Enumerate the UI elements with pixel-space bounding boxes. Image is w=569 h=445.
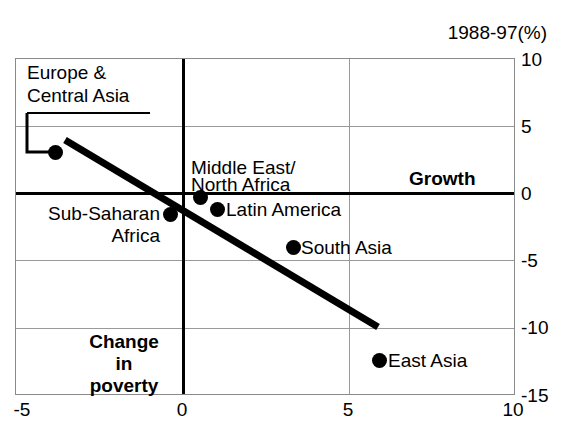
y-tick-0: 0 (521, 184, 532, 203)
annotation-change-in-poverty-line2: in (74, 353, 174, 375)
gridline-y-5 (16, 126, 514, 127)
y-tick-minus15: -15 (521, 386, 548, 405)
datapoint-europe-central-asia[interactable] (48, 145, 63, 160)
label-east-asia: East Asia (388, 350, 467, 371)
scatter-chart: 1988-97(%) 10 5 0 -5 -10 -15 -5 0 5 10 (0, 0, 569, 445)
axis-zero-vertical (182, 59, 185, 394)
x-tick-minus5: -5 (14, 400, 31, 419)
label-latin-america: Latin America (226, 199, 341, 220)
y-tick-5: 5 (521, 117, 532, 136)
datapoint-south-asia[interactable] (286, 240, 301, 255)
x-tick-0: 0 (177, 400, 188, 419)
y-tick-10: 10 (521, 50, 542, 69)
label-sub-saharan-africa-line1: Sub-Saharan (30, 203, 160, 224)
datapoint-east-asia[interactable] (372, 353, 387, 368)
label-sub-saharan-africa-line2: Africa (30, 225, 160, 246)
gridline-y-minus10 (16, 328, 514, 329)
datapoint-latin-america[interactable] (210, 202, 225, 217)
x-tick-10: 10 (502, 400, 523, 419)
datapoint-sub-saharan-africa[interactable] (163, 207, 178, 222)
label-europe-central-asia-line2: Central Asia (27, 85, 129, 106)
gridline-x-5 (349, 59, 350, 394)
label-middle-east-north-africa-line2: North Africa (191, 174, 290, 195)
annotation-change-in-poverty-line1: Change (74, 331, 174, 353)
gridline-y-minus5 (16, 260, 514, 261)
label-south-asia: South Asia (301, 237, 392, 258)
annotation-growth: Growth (409, 168, 476, 190)
annotation-change-in-poverty-line3: poverty (74, 375, 174, 397)
x-tick-5: 5 (343, 400, 354, 419)
label-europe-central-asia-line1: Europe & (27, 62, 106, 83)
y-tick-minus5: -5 (521, 251, 538, 270)
y-tick-minus10: -10 (521, 318, 548, 337)
chart-title: 1988-97(%) (448, 22, 547, 44)
